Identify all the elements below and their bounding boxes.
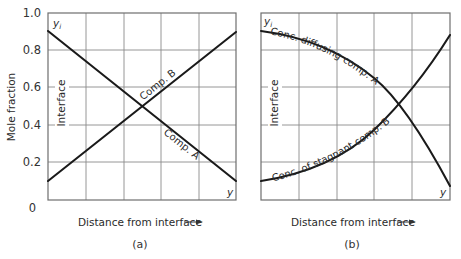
y-axis: 1.0 0.8 0.6 0.4 0.2 0 Mole fraction xyxy=(5,6,41,215)
panel-b-x-axis-label: Distance from interface xyxy=(291,216,415,228)
panel-b-curve-stagnant-b xyxy=(261,35,450,181)
y-axis-label: Mole fraction xyxy=(5,73,17,142)
panel-b: Interface Conc. diffusing comp. A Conc. … xyxy=(261,13,450,251)
panel-b-interface-label: Interface xyxy=(268,79,280,126)
panel-a-comp-b-label: Comp. B xyxy=(138,67,178,102)
ytick-1.0: 1.0 xyxy=(23,6,41,20)
panel-b-yi-label: yi xyxy=(263,15,272,29)
panel-b-y-label: y xyxy=(439,186,447,198)
panel-b-curve-diffusing-a xyxy=(261,31,450,186)
panel-a-interface-label: Interface xyxy=(55,79,67,126)
ytick-0.8: 0.8 xyxy=(23,43,41,57)
panel-a-x-axis-label: Distance from interface xyxy=(78,216,202,228)
panel-a-y-label: y xyxy=(226,186,234,198)
ytick-0: 0 xyxy=(29,201,36,215)
ytick-0.2: 0.2 xyxy=(23,155,41,169)
panel-b-diffusing-a-label: Conc. diffusing comp. A xyxy=(270,26,382,87)
panel-b-caption: (b) xyxy=(344,238,360,251)
ytick-0.6: 0.6 xyxy=(23,80,41,94)
panel-a-yi-label: yi xyxy=(52,17,61,31)
figure: 1.0 0.8 0.6 0.4 0.2 0 Mole fraction Inte… xyxy=(0,0,461,259)
ytick-0.4: 0.4 xyxy=(23,118,41,132)
panel-a-caption: (a) xyxy=(132,238,147,251)
panel-a: Interface Comp. A Comp. B yi y Distance … xyxy=(48,13,236,251)
